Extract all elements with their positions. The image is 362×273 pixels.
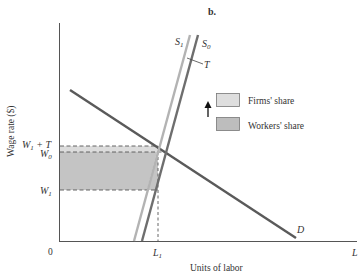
origin-label: 0: [48, 247, 53, 257]
firms-share-area: [60, 146, 158, 152]
legend-workers-label: Workers' share: [248, 121, 304, 131]
chart: b. S1 S0 T Firms' share Workers' share W…: [0, 0, 362, 273]
workers-share-area: [60, 152, 157, 190]
x-axis-title: Units of labor: [190, 263, 244, 273]
l1-label: L1: [152, 247, 162, 260]
legend-workers-swatch: [217, 118, 240, 131]
t-label: T: [204, 59, 211, 70]
y-axis-title: Wage rate ($): [6, 106, 17, 157]
legend-firms-label: Firms' share: [248, 96, 294, 106]
legend-firms-swatch: [217, 94, 240, 107]
chart-title: b.: [208, 6, 217, 17]
x-end-label: L: [351, 247, 358, 258]
s1-label: S1: [175, 36, 184, 49]
d-label: D: [296, 224, 305, 235]
up-arrow-icon: [205, 101, 212, 117]
supply-curve-s0: [142, 35, 198, 241]
s0-label: S0: [202, 38, 211, 51]
w1-label: W1: [40, 185, 52, 198]
